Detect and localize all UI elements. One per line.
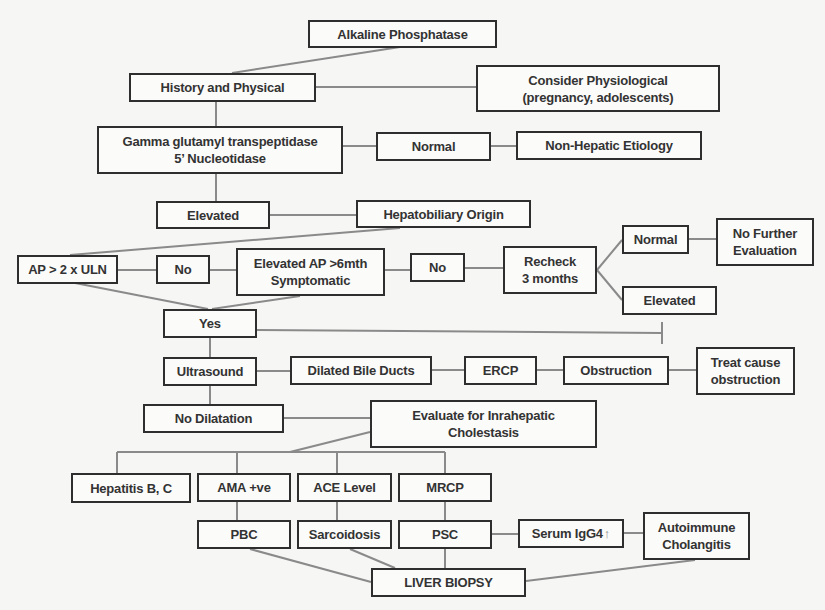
node-ultrasound: Ultrasound — [163, 357, 257, 386]
node-hepatobiliary-origin: Hepatobiliary Origin — [356, 200, 531, 228]
arrow-up-icon: ↑ — [604, 525, 610, 542]
node-elevated-ggt: Elevated — [156, 201, 270, 229]
node-obstruction: Obstruction — [563, 356, 669, 385]
node-non-hepatic-etiology: Non-Hepatic Etiology — [516, 131, 702, 160]
node-alkaline-phosphatase: Alkaline Phosphatase — [308, 20, 497, 48]
node-history-physical: History and Physical — [129, 73, 316, 102]
node-treat-cause-obstruction: Treat cause obstruction — [696, 347, 795, 395]
node-autoimmune-cholangitis: Autoimmune Cholangitis — [643, 512, 750, 560]
node-ercp: ERCP — [464, 356, 537, 385]
node-mrcp: MRCP — [398, 473, 492, 502]
node-pbc: PBC — [197, 520, 291, 549]
node-serum-igg4: Serum IgG4↑ — [518, 519, 624, 548]
node-no-further-evaluation: No Further Evaluation — [716, 218, 814, 266]
serum-igg4-label: Serum IgG4 — [532, 525, 603, 542]
node-normal-recheck: Normal — [622, 225, 689, 254]
node-normal-ggt: Normal — [376, 132, 491, 161]
node-yes: Yes — [163, 309, 257, 338]
node-elevated-ap-6mth: Elevated AP >6mth Symptomatic — [236, 248, 385, 296]
node-no-ap: No — [156, 255, 210, 284]
node-hepatitis-bc: Hepatitis B, C — [71, 473, 191, 503]
node-psc: PSC — [398, 520, 492, 549]
node-ap-2x-uln: AP > 2 x ULN — [17, 255, 118, 284]
node-no-symptomatic: No — [410, 253, 465, 282]
node-liver-biopsy: LIVER BIOPSY — [371, 568, 526, 597]
node-recheck-3-months: Recheck 3 months — [503, 246, 597, 294]
node-sarcoidosis: Sarcoidosis — [297, 520, 392, 549]
node-evaluate-intrahepatic-cholestasis: Evaluate for Inrahepatic Cholestasis — [370, 400, 597, 448]
node-no-dilatation: No Dilatation — [143, 404, 284, 433]
node-ama-positive: AMA +ve — [197, 473, 291, 502]
node-consider-physiological: Consider Physiological (pregnancy, adole… — [476, 65, 720, 112]
node-elevated-recheck: Elevated — [622, 286, 717, 315]
node-dilated-bile-ducts: Dilated Bile Ducts — [290, 356, 432, 385]
node-ggt-5nt: Gamma glutamyl transpeptidase 5’ Nucleot… — [97, 126, 343, 174]
node-ace-level: ACE Level — [297, 473, 392, 502]
